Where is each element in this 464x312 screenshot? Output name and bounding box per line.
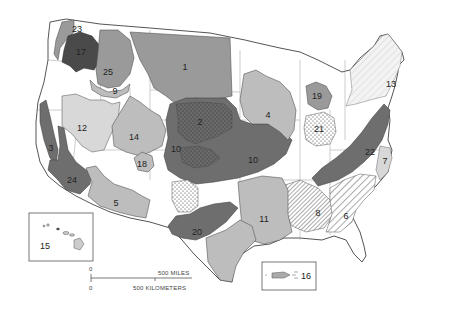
hawaii-inset xyxy=(29,213,93,261)
region-label-12: 12 xyxy=(77,124,87,133)
region-label-15: 15 xyxy=(40,242,50,251)
region-label-8: 8 xyxy=(315,209,320,218)
region-label-3: 3 xyxy=(48,144,53,153)
region-label-24: 24 xyxy=(67,176,77,185)
scale-miles-label: 500 MILES xyxy=(158,270,189,276)
us-regions-map xyxy=(0,0,464,312)
scale-km-label: 500 KILOMETERS xyxy=(133,285,186,291)
region-label-6: 6 xyxy=(343,212,348,221)
region-label-11: 11 xyxy=(259,215,268,224)
region-label-5: 5 xyxy=(113,199,118,208)
region-label-14: 14 xyxy=(129,133,139,142)
region-label-20: 20 xyxy=(192,228,202,237)
region-label-9: 9 xyxy=(112,87,117,96)
scale-zero-km: 0 xyxy=(89,285,93,291)
region-label-17: 17 xyxy=(76,48,86,57)
region-label-2: 2 xyxy=(197,118,202,127)
region-label-1: 1 xyxy=(182,63,187,72)
region-label-23: 23 xyxy=(72,25,82,34)
region-label-16: 16 xyxy=(301,272,311,281)
scale-zero-miles: 0 xyxy=(89,266,93,272)
region-label-21: 21 xyxy=(314,125,324,134)
region-label-13: 13 xyxy=(386,80,396,89)
region-label-10b: 10 xyxy=(248,156,258,165)
region-label-22: 22 xyxy=(365,148,375,157)
region-label-7: 7 xyxy=(382,157,387,166)
region-label-18: 18 xyxy=(137,160,147,169)
region-label-19: 19 xyxy=(312,92,322,101)
region-label-4: 4 xyxy=(265,111,270,120)
region-label-10a: 10 xyxy=(171,145,181,154)
region-label-25: 25 xyxy=(103,68,113,77)
region-stippled-texas xyxy=(172,180,198,212)
region-13 xyxy=(346,34,402,106)
